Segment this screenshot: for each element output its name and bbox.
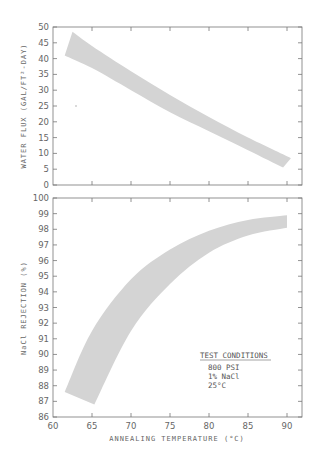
y-tick-label: 88 <box>38 381 49 391</box>
water-flux-band <box>65 32 291 168</box>
y-tick-label: 90 <box>38 349 49 359</box>
y-tick-label: 96 <box>38 256 49 266</box>
y-tick-label: 87 <box>38 396 49 406</box>
y-tick-label: 35 <box>38 69 49 79</box>
y-tick-label: 99 <box>38 209 49 219</box>
y-tick-label: 15 <box>38 133 49 143</box>
x-tick-label: 85 <box>243 421 254 431</box>
y-tick-label: 95 <box>38 271 49 281</box>
stray-dot <box>75 105 77 107</box>
y-tick-label: 92 <box>38 318 49 328</box>
test-conditions-legend: TEST CONDITIONS 800 PSI 1% NaCl 25°C <box>200 351 271 390</box>
y-tick-label: 91 <box>38 334 49 344</box>
condition-concentration: 1% NaCl <box>208 372 240 381</box>
figure: 05101520253035404550 WATER FLUX (GAL/FT²… <box>0 0 324 459</box>
x-tick-label: 60 <box>48 421 59 431</box>
y-tick-label: 100 <box>33 193 49 203</box>
y-tick-label: 50 <box>38 22 49 32</box>
y-tick-label: 0 <box>44 180 49 190</box>
y-tick-label: 25 <box>38 101 49 111</box>
y-tick-label: 93 <box>38 303 49 313</box>
nacl-rejection-band <box>65 215 287 404</box>
y-tick-label: 5 <box>44 164 49 174</box>
y-tick-label: 97 <box>38 240 49 250</box>
condition-temperature: 25°C <box>208 381 226 390</box>
test-conditions-title: TEST CONDITIONS <box>200 351 268 360</box>
y-tick-label: 94 <box>38 287 49 297</box>
y-tick-label: 30 <box>38 85 49 95</box>
y-tick-label: 40 <box>38 54 49 64</box>
x-axis-label: ANNEALING TEMPERATURE (°C) <box>109 435 245 443</box>
bottom-y-axis-label: NaCl REJECTION (%) <box>20 261 28 355</box>
x-tick-label: 75 <box>165 421 176 431</box>
y-tick-label: 45 <box>38 38 49 48</box>
top-y-axis-label: WATER FLUX (GAL/FT²-DAY) <box>20 43 28 168</box>
condition-pressure: 800 PSI <box>208 363 240 372</box>
x-tick-label: 90 <box>282 421 293 431</box>
y-tick-label: 10 <box>38 148 49 158</box>
x-tick-label: 80 <box>204 421 215 431</box>
y-tick-label: 98 <box>38 224 49 234</box>
x-tick-label: 65 <box>87 421 98 431</box>
x-tick-label: 70 <box>126 421 137 431</box>
y-tick-label: 89 <box>38 365 49 375</box>
y-tick-label: 20 <box>38 117 49 127</box>
